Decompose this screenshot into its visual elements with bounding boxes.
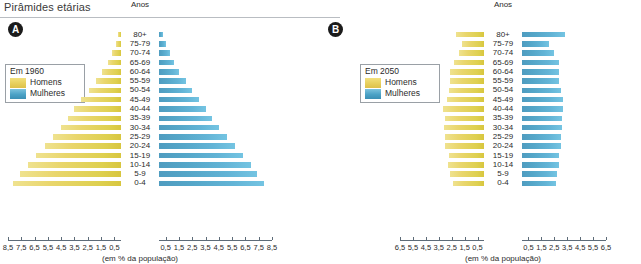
pyramid-row: 10-14: [8, 160, 272, 169]
axis-tick-label: 5,5: [588, 243, 598, 252]
pyramid-bar-women: [159, 32, 163, 38]
age-group-label: 50-54: [121, 86, 159, 94]
pyramid-bar-men: [450, 171, 484, 177]
pyramid-bar-women: [159, 78, 186, 84]
axis-tick-label: 6,5: [601, 243, 611, 252]
age-group-label: 55-59: [484, 77, 522, 85]
pyramid-bar-women: [522, 106, 563, 112]
pyramid-bar-women: [522, 88, 561, 94]
pyramid-bar-cell-women: [159, 58, 272, 67]
pyramid-bar-men: [61, 125, 121, 131]
pyramid-bar-men: [459, 50, 484, 56]
pyramid-bar-women: [159, 134, 227, 140]
pyramid-bar-cell-men: [400, 39, 484, 48]
pyramid-row: 75-79: [8, 39, 272, 48]
axis-tick: [593, 237, 594, 240]
axis-tick-label: 5,5: [43, 243, 53, 252]
pyramid-bar-men: [456, 32, 484, 38]
pyramid-bar-women: [159, 116, 212, 122]
pyramid-bar-women: [159, 41, 166, 47]
pyramid-bar-men: [28, 162, 121, 168]
axis-tick-label: 3,5: [69, 243, 79, 252]
age-group-label: 70-74: [484, 49, 522, 57]
axis-tick: [88, 237, 89, 240]
pyramid-bar-women: [522, 153, 559, 159]
pyramid-bar-women: [522, 162, 559, 168]
infographic-page: Pirâmides etárias A B Em 1960 Homens Mul…: [0, 0, 641, 264]
axis-tick-label: 1,5: [174, 243, 184, 252]
pyramid-bar-men: [449, 153, 484, 159]
age-group-label: 45-49: [484, 96, 522, 104]
pyramid-bar-men: [453, 181, 484, 187]
pyramid-bar-cell-men: [400, 123, 484, 132]
axis-tick-label: 3,5: [562, 243, 572, 252]
pyramid-bar-cell-women: [159, 160, 272, 169]
axis-tick: [439, 237, 440, 240]
axis-tick: [554, 237, 555, 240]
axis-tick-label: 7,5: [253, 243, 263, 252]
pyramid-bar-cell-men: [8, 114, 121, 123]
pyramid-row: 65-69: [400, 58, 606, 67]
pyramid-bar-cell-women: [159, 95, 272, 104]
age-group-label: 40-44: [121, 105, 159, 113]
pyramid-bar-men: [118, 32, 121, 38]
x-axis-a: 0,51,52,53,54,55,56,57,58,50,51,52,53,54…: [8, 240, 272, 254]
axis-tick-label: 2,5: [549, 243, 559, 252]
axis-tick: [606, 237, 607, 240]
pyramid-bar-men: [20, 171, 121, 177]
pyramid-row: 40-44: [8, 104, 272, 113]
pyramid-bar-cell-women: [159, 179, 272, 188]
age-group-label: 80+: [121, 31, 159, 39]
axis-tick: [528, 237, 529, 240]
pyramid-bar-cell-men: [400, 67, 484, 76]
pyramid-bar-women: [159, 60, 174, 66]
pyramid-row: 60-64: [8, 67, 272, 76]
pyramid-row: 20-24: [400, 142, 606, 151]
pyramid-bar-cell-women: [522, 76, 606, 85]
pyramid-bar-cell-women: [522, 142, 606, 151]
axis-tick-label: 6,5: [395, 243, 405, 252]
pyramid-bar-women: [522, 125, 562, 131]
axis-tick: [272, 237, 273, 240]
axis-title-anos-b: Anos: [484, 0, 522, 9]
pyramid-bar-cell-women: [159, 142, 272, 151]
pyramid-bar-men: [53, 134, 121, 140]
pyramid-bar-cell-men: [400, 114, 484, 123]
pyramid-bar-men: [462, 41, 484, 47]
pyramid-row: 15-19: [8, 151, 272, 160]
pyramid-bar-cell-men: [400, 86, 484, 95]
pyramid-bar-women: [522, 134, 561, 140]
pyramid-bar-cell-women: [522, 179, 606, 188]
age-group-label: 25-29: [121, 133, 159, 141]
pyramid-bar-men: [450, 69, 484, 75]
axis-tick: [48, 237, 49, 240]
pyramid-bar-cell-men: [8, 67, 121, 76]
pyramid-bar-cell-men: [400, 132, 484, 141]
pyramid-bar-women: [522, 41, 549, 47]
age-group-label: 40-44: [484, 105, 522, 113]
pyramid-row: 80+: [400, 30, 606, 39]
pyramid-bar-cell-women: [522, 132, 606, 141]
pyramid-row: 50-54: [400, 86, 606, 95]
axis-tick-label: 0,5: [109, 243, 119, 252]
axis-tick-label: 0,5: [523, 243, 533, 252]
axis-tick: [478, 237, 479, 240]
age-group-label: 0-4: [484, 179, 522, 187]
pyramid-bar-cell-women: [522, 30, 606, 39]
age-group-label: 5-9: [121, 170, 159, 178]
age-group-label: 30-34: [121, 124, 159, 132]
pyramid-bar-women: [522, 60, 559, 66]
pyramid-bar-women: [159, 97, 199, 103]
pyramid-bar-cell-men: [8, 49, 121, 58]
axis-line-right: [522, 240, 606, 241]
pyramid-bar-cell-men: [8, 151, 121, 160]
pyramid-bar-women: [159, 125, 219, 131]
pyramid-bar-men: [116, 41, 121, 47]
pyramid-bar-men: [443, 106, 484, 112]
pyramid-bar-cell-men: [400, 76, 484, 85]
age-group-label: 30-34: [484, 124, 522, 132]
pyramid-bar-men: [108, 60, 121, 66]
pyramid-bar-cell-women: [159, 49, 272, 58]
pyramid-row: 65-69: [8, 58, 272, 67]
axis-tick: [74, 237, 75, 240]
